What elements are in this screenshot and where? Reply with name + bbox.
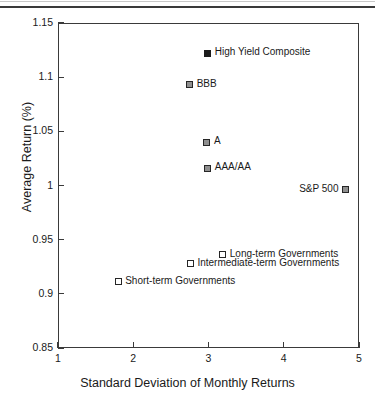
scatter-chart-figure: High Yield CompositeBBBAAAA/AAS&P 500Lon… [0, 0, 375, 401]
x-tick-mark [57, 342, 58, 348]
x-tick-mark [358, 342, 359, 348]
data-point-marker-open [187, 260, 194, 267]
x-tick-mark [133, 342, 134, 348]
data-point-marker-solid [204, 50, 211, 57]
data-point-label: S&P 500 [299, 183, 338, 194]
y-tick-mark [58, 239, 64, 240]
data-point-marker-open [115, 278, 122, 285]
data-point-marker-shaded [342, 186, 349, 193]
x-tick-mark [283, 342, 284, 348]
y-tick-mark [58, 347, 64, 348]
y-tick-mark [58, 131, 64, 132]
data-point-marker-shaded [204, 165, 211, 172]
x-tick-label: 5 [339, 352, 375, 364]
y-tick-label: 0.9 [1, 287, 53, 299]
data-point-label: A [214, 135, 221, 146]
data-point-label: BBB [197, 78, 217, 89]
data-point-marker-shaded [186, 81, 193, 88]
data-point-label: Intermediate-term Governments [197, 257, 339, 268]
x-tick-label: 2 [113, 352, 153, 364]
x-tick-label: 1 [38, 352, 78, 364]
data-point-label: High Yield Composite [215, 46, 311, 57]
y-axis-title: Average Return (%) [20, 57, 34, 257]
data-point-label: AAA/AA [215, 161, 251, 172]
y-tick-mark [58, 293, 64, 294]
y-tick-mark [58, 185, 64, 186]
x-tick-label: 3 [189, 352, 229, 364]
data-point-marker-shaded [203, 139, 210, 146]
x-tick-label: 4 [264, 352, 304, 364]
y-tick-mark [58, 22, 64, 23]
y-tick-label: 1.15 [1, 16, 53, 28]
x-tick-mark [208, 342, 209, 348]
y-tick-mark [58, 77, 64, 78]
data-point-label: Short-term Governments [125, 275, 235, 286]
plot-area: High Yield CompositeBBBAAAA/AAS&P 500Lon… [58, 23, 359, 348]
x-axis-title: Standard Deviation of Monthly Returns [0, 376, 375, 390]
